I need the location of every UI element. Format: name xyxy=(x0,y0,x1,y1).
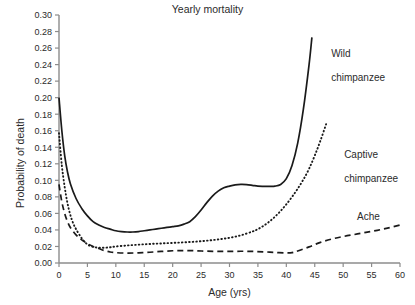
x-axis-tick-label: 20 xyxy=(168,270,178,280)
y-axis-tick-label: 0.06 xyxy=(34,209,52,219)
y-axis-tick-label: 0.18 xyxy=(34,110,52,120)
series-label-ache: Ache xyxy=(357,211,380,223)
y-axis-tick-label: 0.02 xyxy=(34,242,52,252)
y-axis-tick-label: 0.26 xyxy=(34,43,52,53)
series-line-captive-chimpanzee xyxy=(59,124,326,248)
y-axis-tick-label: 0.12 xyxy=(34,159,52,169)
series-label-captive-line2: chimpanzee xyxy=(344,173,398,184)
x-axis-tick-label: 15 xyxy=(139,270,149,280)
y-axis-tick-label: 0.16 xyxy=(34,126,52,136)
series-line-wild-chimpanzee xyxy=(59,37,312,232)
y-axis-tick-label: 0.08 xyxy=(34,192,52,202)
y-axis-tick-label: 0.20 xyxy=(34,93,52,103)
series-label-captive-line1: Captive xyxy=(344,149,378,160)
x-axis-tick-label: 0 xyxy=(56,270,61,280)
x-axis-tick-label: 30 xyxy=(224,270,234,280)
series-label-wild-line1: Wild xyxy=(331,48,350,59)
y-axis-tick-label: 0.04 xyxy=(34,225,52,235)
y-axis-tick-label: 0.28 xyxy=(34,27,52,37)
y-axis-tick-label: 0.14 xyxy=(34,143,52,153)
y-axis-tick-label: 0.24 xyxy=(34,60,52,70)
chart-figure: Yearly mortality Probability of death Ag… xyxy=(0,0,415,305)
series-label-captive-chimpanzee: Captive chimpanzee xyxy=(333,137,398,197)
x-axis-tick-label: 35 xyxy=(253,270,263,280)
x-axis-tick-label: 25 xyxy=(196,270,206,280)
x-axis-tick-label: 55 xyxy=(367,270,377,280)
x-axis-tick-label: 45 xyxy=(310,270,320,280)
y-axis-tick-label: 0.00 xyxy=(34,258,52,268)
y-axis-tick-label: 0.10 xyxy=(34,176,52,186)
x-axis-tick-label: 40 xyxy=(281,270,291,280)
x-axis-tick-label: 5 xyxy=(85,270,90,280)
series-label-wild-chimpanzee: Wild chimpanzee xyxy=(320,36,385,96)
series-label-wild-line2: chimpanzee xyxy=(331,72,385,83)
x-axis-tick-label: 10 xyxy=(111,270,121,280)
y-axis-tick-label: 0.22 xyxy=(34,76,52,86)
x-axis-tick-label: 60 xyxy=(395,270,405,280)
x-axis-tick-label: 50 xyxy=(338,270,348,280)
y-axis-tick-label: 0.30 xyxy=(34,10,52,20)
